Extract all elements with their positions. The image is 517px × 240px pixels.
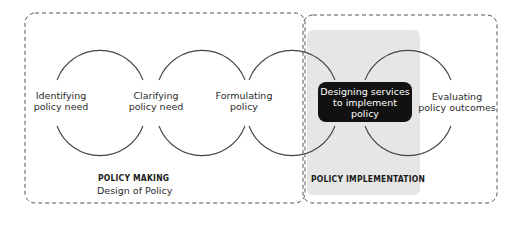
step-label: policy need	[34, 101, 89, 112]
circle-1-arc	[57, 50, 143, 80]
step-label: Evaluating	[418, 91, 496, 102]
policy-implementation-title: POLICY IMPLEMENTATION	[311, 174, 425, 184]
step-label: policy need	[129, 101, 184, 112]
policy-making-title: POLICY MAKING	[98, 173, 169, 183]
step-designing-services: Designing services to implement policy	[318, 82, 412, 122]
step-label: Formulating	[216, 90, 273, 101]
step-formulating-policy: Formulating policy	[216, 90, 273, 112]
step-label: to implement	[320, 97, 410, 108]
circle-2-arc	[159, 50, 245, 80]
step-label: policy outcomes	[418, 102, 496, 113]
step-label: policy	[320, 108, 410, 119]
step-label: Identifying	[34, 90, 89, 101]
step-identifying-policy-need: Identifying policy need	[34, 90, 89, 112]
policy-making-subtitle: Design of Policy	[97, 185, 172, 196]
step-evaluating-policy-outcomes: Evaluating policy outcomes	[418, 91, 496, 113]
step-clarifying-policy-need: Clarifying policy need	[129, 90, 184, 112]
step-label: Designing services	[320, 86, 410, 97]
step-label: policy	[216, 101, 273, 112]
step-label: Clarifying	[129, 90, 184, 101]
